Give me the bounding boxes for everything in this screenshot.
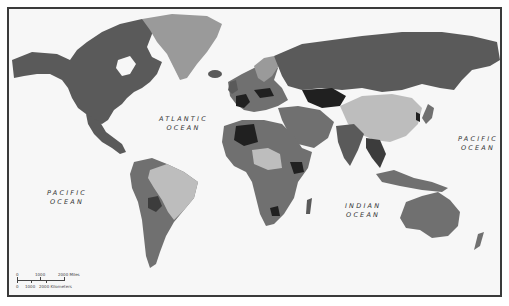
scale-tick xyxy=(64,277,65,280)
scale-tick xyxy=(40,277,41,280)
scale-miles-2000: 2000 Miles xyxy=(58,272,80,277)
region-central-asia xyxy=(302,88,346,108)
region-north-america xyxy=(12,19,162,124)
scale-km-2000: 2000 Kilometers xyxy=(39,284,72,289)
region-india xyxy=(336,124,364,166)
scale-line xyxy=(17,280,65,281)
scale-km-0: 0 xyxy=(16,284,19,289)
region-russia xyxy=(274,32,500,92)
atlantic-ocean-label: ATLANTIC OCEAN xyxy=(159,115,208,133)
pacific-ocean-label-west: PACIFIC OCEAN xyxy=(47,189,87,207)
region-indonesia xyxy=(376,170,448,192)
scale-tick xyxy=(17,277,18,283)
indian-ocean-label: INDIAN OCEAN xyxy=(345,202,381,220)
scale-tick xyxy=(31,280,32,283)
region-southeast-asia xyxy=(366,138,386,168)
scale-km-1000: 1000 xyxy=(25,284,35,289)
region-new-zealand xyxy=(474,232,484,250)
pacific-ocean-label-east: PACIFIC OCEAN xyxy=(458,135,498,153)
world-map xyxy=(9,9,502,297)
scale-bar: 0 1000 2000 Miles 0 1000 2000 Kilometers xyxy=(15,272,85,294)
region-madagascar xyxy=(306,198,312,214)
region-japan xyxy=(422,104,434,124)
scale-tick xyxy=(46,280,47,283)
region-iceland xyxy=(208,70,222,78)
region-australia xyxy=(400,192,460,238)
world-map-frame: ATLANTIC OCEAN PACIFIC OCEAN INDIAN OCEA… xyxy=(7,7,502,297)
